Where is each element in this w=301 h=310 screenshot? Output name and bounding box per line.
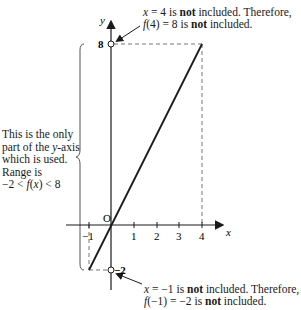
open-circle-8 (108, 41, 114, 47)
x-axis-label: x (225, 226, 231, 238)
x-tick-label: 2 (154, 230, 160, 242)
arrow-top (117, 26, 140, 41)
annotation-top: x = 4 is not included. Therefore, f(4) =… (143, 6, 292, 30)
x-tick-label: 1 (131, 230, 137, 242)
y-axis-label: y (99, 14, 105, 26)
x-tick-label: 4 (199, 230, 205, 242)
y-label-neg2: −2 (114, 264, 126, 276)
origin-label: O (103, 212, 111, 224)
y-label-8: 8 (98, 38, 104, 50)
annotation-bottom: x = −1 is not included. Therefore, f(−1)… (144, 283, 299, 307)
function-line (89, 44, 202, 270)
x-tick-label: −1 (82, 230, 94, 242)
annotation-range: This is the only part of the y-axis whic… (2, 128, 82, 191)
x-tick-label: 3 (176, 230, 182, 242)
